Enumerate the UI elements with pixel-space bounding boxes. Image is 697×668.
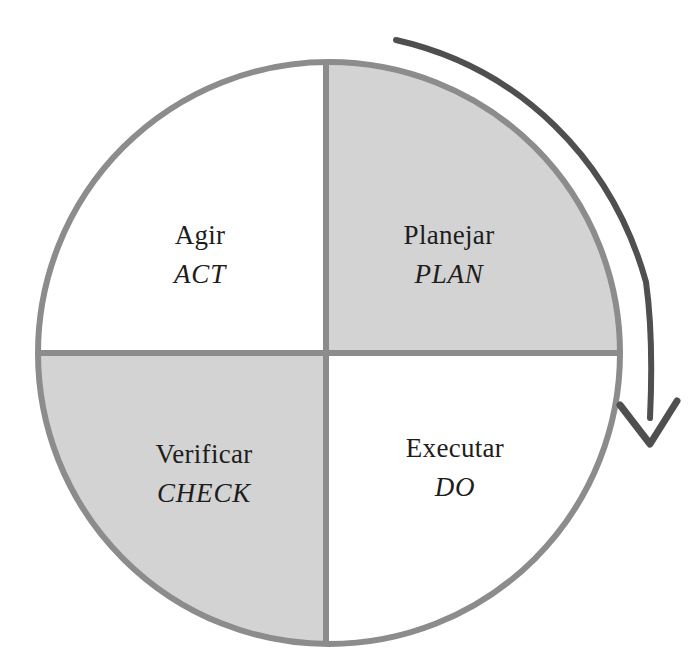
pdca-wheel-graphic [0, 0, 697, 668]
quadrant-label-do-pt: Executar [406, 435, 504, 462]
quadrant-label-check-pt: Verificar [155, 441, 252, 468]
quadrant-label-do: Executar DO [406, 435, 504, 501]
quadrant-label-check-en: CHECK [155, 480, 252, 507]
quadrant-label-plan: Planejar PLAN [404, 222, 495, 288]
quadrant-label-act-pt: Agir [174, 222, 226, 249]
quadrant-label-act-en: ACT [174, 261, 226, 288]
quadrant-label-check: Verificar CHECK [155, 441, 252, 507]
quadrant-label-act: Agir ACT [174, 222, 226, 288]
quadrant-label-plan-pt: Planejar [404, 222, 495, 249]
quadrant-label-do-en: DO [406, 474, 504, 501]
quadrant-fill-plan [329, 62, 620, 353]
pdca-diagram: Agir ACT Planejar PLAN Verificar CHECK E… [0, 0, 697, 668]
quadrant-label-plan-en: PLAN [404, 261, 495, 288]
